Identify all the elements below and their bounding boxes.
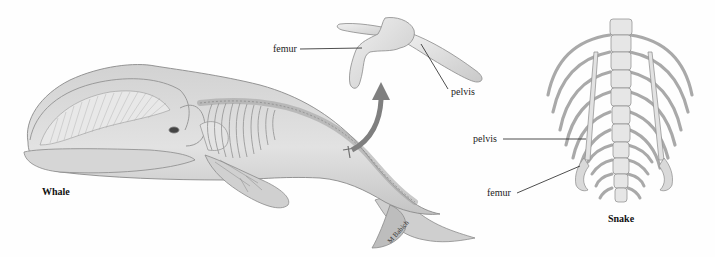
arrow-head-icon: [372, 82, 390, 100]
snake-femur-label: femur: [487, 188, 511, 198]
whale-caption: Whale: [42, 187, 70, 197]
leader-line-snake-femur: [517, 166, 580, 193]
snake-illustration: [503, 19, 692, 202]
whale-body: [27, 65, 440, 215]
leader-line-femur: [300, 48, 362, 49]
whale-eye: [169, 127, 179, 133]
snake-femur-left: [575, 158, 589, 191]
whale-pelvis-detail: [300, 18, 482, 90]
figure-canvas: Whale femur pelvis pelvis femur Snake M …: [0, 0, 715, 257]
snake-femur-right: [659, 158, 673, 191]
whale-femur-label: femur: [273, 44, 297, 54]
snake-pelvis-label: pelvis: [473, 134, 497, 144]
snake-caption: Snake: [608, 214, 634, 224]
whale-pelvis-label: pelvis: [451, 87, 475, 97]
